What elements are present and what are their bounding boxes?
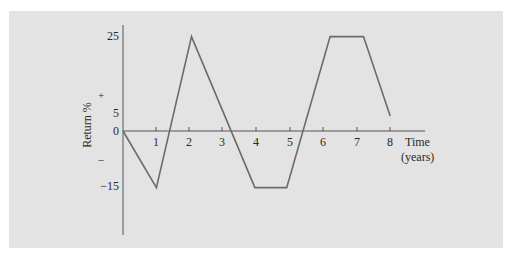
y-tick-labels: 25 5 0 −15 — [100, 29, 119, 193]
x-tick-label: 4 — [253, 135, 259, 149]
x-tick-label: 5 — [287, 135, 293, 149]
y-tick-label: −15 — [100, 179, 119, 193]
x-tick-label: 7 — [354, 135, 360, 149]
x-tick-label: 6 — [320, 135, 326, 149]
y-tick-label: 25 — [107, 29, 119, 43]
positive-sign-marker: + — [98, 89, 104, 101]
x-axis-label-line2: (years) — [401, 150, 434, 164]
return-over-time-chart: 1 2 3 4 5 6 7 8 Time (years) 25 5 0 −15 … — [0, 0, 511, 257]
x-tick-label: 2 — [186, 135, 192, 149]
negative-sign-marker: – — [97, 153, 104, 165]
x-ticks — [156, 127, 390, 131]
x-tick-label: 3 — [219, 135, 225, 149]
y-tick-label: 5 — [113, 106, 119, 120]
x-axis-label-line1: Time — [405, 135, 430, 149]
x-tick-label: 1 — [153, 135, 159, 149]
return-line — [123, 37, 390, 188]
x-tick-label: 8 — [387, 135, 393, 149]
x-tick-labels: 1 2 3 4 5 6 7 8 — [153, 135, 393, 149]
y-tick-label: 0 — [113, 124, 119, 138]
y-axis-label: Return % — [80, 102, 94, 148]
